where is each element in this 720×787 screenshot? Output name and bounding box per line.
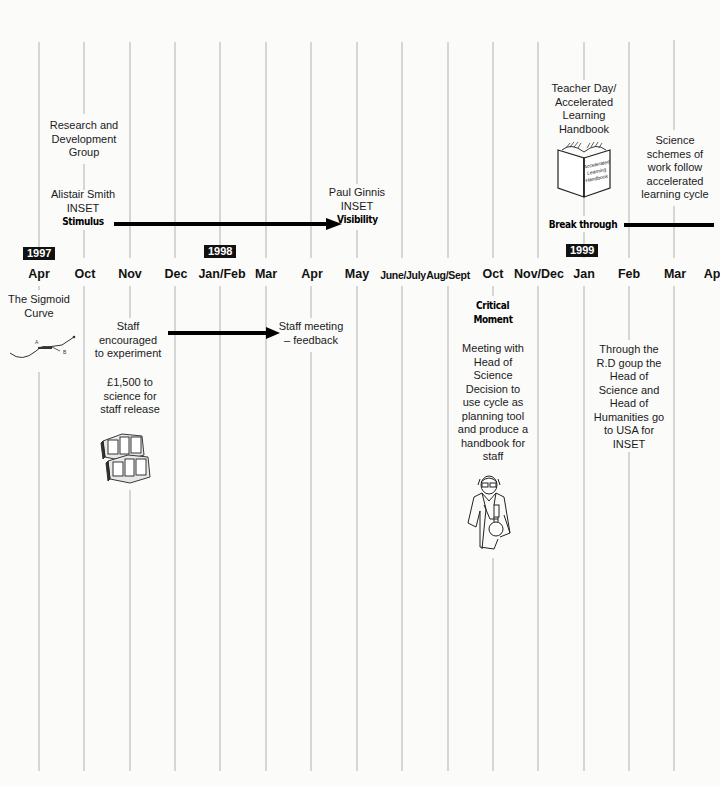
gridline: [174, 42, 176, 771]
note-line: Through the: [594, 343, 664, 357]
year-badge-1997: 1997: [23, 247, 55, 260]
gridline: [537, 42, 539, 771]
note-line: Handbook: [552, 123, 617, 137]
month-label: May: [345, 267, 369, 281]
critical-moment-label: Critical: [476, 299, 509, 313]
rd-group-note: Research and Development Group: [50, 119, 119, 160]
note-line: Decision to: [458, 383, 528, 397]
stimulus-label: Stimulus: [62, 215, 104, 229]
note-line: work follow: [641, 161, 708, 175]
meeting-head-of-science-note: Meeting with Head of Science Decision to…: [458, 342, 528, 464]
note-line: science for: [100, 390, 160, 404]
note-line: Head of: [594, 397, 664, 411]
scientist-icon: [464, 475, 514, 551]
svg-text:A: A: [35, 339, 39, 345]
note-line: INSET: [329, 200, 385, 214]
month-label: Nov/Dec: [514, 267, 564, 281]
note-line: staff: [458, 450, 528, 464]
note-line: and produce a: [458, 423, 528, 437]
month-label: Apr: [28, 267, 50, 281]
rd-group-usa-note: Through the R.D goup the Head of Science…: [594, 343, 664, 451]
alistair-smith-note: Alistair Smith INSET Stimulus: [51, 188, 115, 229]
staff-meeting-note: Staff meeting – feedback: [279, 320, 344, 347]
month-label: Jan/Feb: [198, 267, 245, 281]
month-label: Ap: [704, 267, 720, 281]
gridline: [447, 42, 449, 771]
note-line: INSET: [594, 438, 664, 452]
paul-ginnis-note: Paul Ginnis INSET Visibility: [329, 186, 385, 227]
note-line: Meeting with: [458, 342, 528, 356]
note-line: Paul Ginnis: [329, 186, 385, 200]
note-line: learning cycle: [641, 188, 708, 202]
note-line: Accelerated: [552, 96, 617, 110]
year-badge-1998: 1998: [204, 245, 236, 258]
gridline: [38, 42, 40, 771]
handbook-book-icon: Accelerated Learning Handbook: [556, 140, 612, 200]
note-line: Science and: [594, 384, 664, 398]
note-line: Learning: [552, 109, 617, 123]
break-through-label: Break through: [549, 218, 618, 232]
note-line: planning tool: [458, 410, 528, 424]
sigmoid-curve-icon: A B: [8, 335, 76, 363]
note-line: Staff meeting: [279, 320, 344, 334]
year-badge-1999: 1999: [566, 244, 598, 257]
visibility-label: Visibility: [337, 213, 378, 227]
note-line: Head of: [458, 356, 528, 370]
break-through-note: Break through: [545, 218, 621, 232]
note-line: Alistair Smith: [51, 188, 115, 202]
note-line: £1,500 to: [100, 376, 160, 390]
note-line: schemes of: [641, 148, 708, 162]
gridline: [356, 42, 358, 771]
stimulus-arrow-shaft: [114, 222, 330, 226]
note-line: Science: [458, 369, 528, 383]
note-line: – feedback: [279, 334, 344, 348]
note-line: to USA for: [594, 424, 664, 438]
note-line: Curve: [8, 307, 70, 321]
gridline: [265, 42, 267, 771]
month-label: Oct: [483, 267, 504, 281]
money-stack-icon: [100, 431, 154, 485]
svg-text:B: B: [63, 349, 67, 355]
note-line: INSET: [51, 202, 115, 216]
note-line: use cycle as: [458, 396, 528, 410]
note-line: The Sigmoid: [8, 293, 70, 307]
note-line: Group: [50, 146, 119, 160]
note-line: to experiment: [95, 347, 162, 361]
month-label: Apr: [301, 267, 323, 281]
note-line: Science: [641, 134, 708, 148]
note-line: R.D goup the: [594, 357, 664, 371]
note-line: Staff: [95, 320, 162, 334]
month-label: Dec: [165, 267, 188, 281]
sigmoid-curve-note: The Sigmoid Curve: [8, 293, 70, 320]
month-label: Nov: [118, 267, 142, 281]
note-line: Head of: [594, 370, 664, 384]
month-label: Aug/Sept: [426, 269, 470, 281]
science-schemes-note: Science schemes of work follow accelerat…: [641, 134, 708, 202]
gridline: [219, 42, 221, 771]
note-line: Research and: [50, 119, 119, 133]
break-through-arrow-shaft: [624, 223, 714, 227]
month-label: Oct: [75, 267, 96, 281]
note-line: encouraged: [95, 334, 162, 348]
month-label: Mar: [255, 267, 277, 281]
gridline: [310, 42, 312, 771]
gridline: [401, 42, 403, 771]
teacher-day-note: Teacher Day/ Accelerated Learning Handbo…: [552, 82, 617, 136]
note-line: staff release: [100, 403, 160, 417]
staff-arrow-shaft: [168, 331, 268, 335]
month-label: Jan: [573, 267, 595, 281]
note-line: Development: [50, 133, 119, 147]
critical-moment-note: Critical Moment: [471, 299, 515, 326]
note-line: handbook for: [458, 437, 528, 451]
month-label: Feb: [618, 267, 640, 281]
month-label: Mar: [664, 267, 686, 281]
money-note: £1,500 to science for staff release: [100, 376, 160, 417]
note-line: Humanities go: [594, 411, 664, 425]
staff-encouraged-note: Staff encouraged to experiment: [95, 320, 162, 361]
note-line: Teacher Day/: [552, 82, 617, 96]
note-line: accelerated: [641, 175, 708, 189]
month-label: June/July: [380, 269, 426, 281]
